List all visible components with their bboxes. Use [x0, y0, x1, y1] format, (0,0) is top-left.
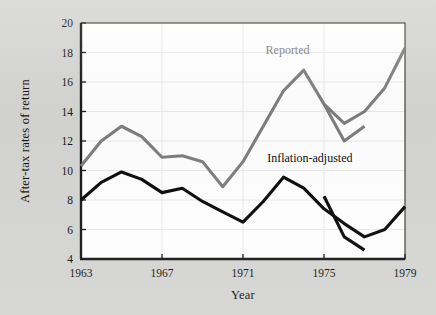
x-tick-label: 1971	[232, 267, 255, 279]
y-tick-label: 16	[62, 76, 74, 88]
x-tick-label: 1963	[70, 267, 93, 279]
y-tick-label: 4	[67, 253, 73, 265]
series-annotation-label: Inflation-adjusted	[267, 151, 352, 165]
y-tick-label: 14	[62, 106, 74, 118]
y-tick-label: 18	[62, 47, 74, 59]
line-chart: 46810121416182019631967197119751979 Repo…	[0, 0, 436, 315]
x-tick-label: 1967	[151, 267, 174, 279]
y-tick-label: 12	[62, 135, 74, 147]
x-tick-label: 1979	[394, 267, 417, 279]
series-annotation-label: Reported	[266, 43, 310, 57]
y-tick-label: 20	[62, 17, 74, 29]
y-axis-title: After-tax rates of return	[18, 79, 32, 203]
y-tick-label: 10	[62, 165, 74, 177]
y-tick-label: 8	[67, 194, 73, 206]
figure-container: 46810121416182019631967197119751979 Repo…	[0, 0, 436, 315]
x-axis-title: Year	[231, 288, 255, 302]
y-tick-label: 6	[67, 224, 73, 236]
x-tick-label: 1975	[313, 267, 336, 279]
